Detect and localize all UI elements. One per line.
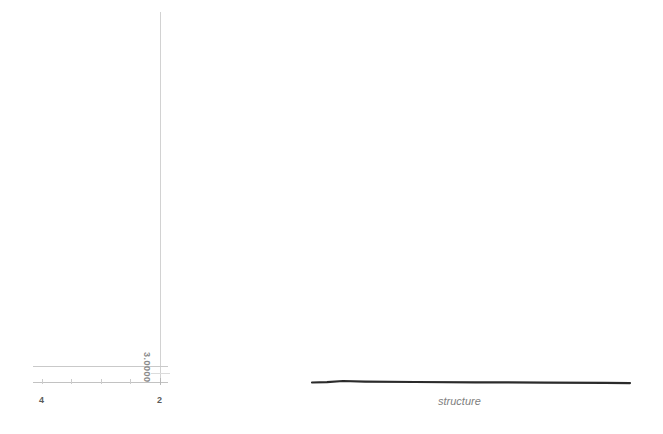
structure-caption: structure xyxy=(438,395,481,407)
x-axis-tick-label-2: 2 xyxy=(157,395,162,405)
x-axis-tick-label-4: 4 xyxy=(39,395,44,405)
x-axis-tick-major xyxy=(160,378,161,385)
vertical-axis-line xyxy=(160,12,161,383)
chart-canvas: 3.0000 4 2 structure xyxy=(0,0,663,434)
x-axis-tick xyxy=(42,379,43,384)
x-axis-tick xyxy=(101,379,102,384)
vertical-value-label: 3.0000 xyxy=(142,352,152,383)
structure-curve xyxy=(305,376,635,390)
x-axis-tick xyxy=(130,379,131,384)
value-tick-mark xyxy=(151,373,170,374)
x-axis-tick xyxy=(71,379,72,384)
